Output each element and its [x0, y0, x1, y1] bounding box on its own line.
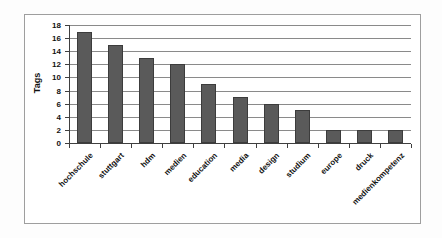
x-category-label: studium — [284, 151, 312, 179]
y-tick-mark — [65, 77, 69, 78]
bar — [388, 130, 403, 143]
x-category-label: stuttgart — [97, 151, 126, 180]
y-tick-mark — [65, 130, 69, 131]
y-tick-label: 12 — [45, 60, 61, 69]
x-tick-mark — [100, 144, 101, 148]
gridline — [69, 38, 411, 39]
bar — [233, 97, 248, 143]
y-tick-mark — [65, 91, 69, 92]
y-tick-mark — [65, 51, 69, 52]
bar — [108, 45, 123, 143]
x-tick-mark — [193, 144, 194, 148]
x-tick-mark — [131, 144, 132, 148]
x-category-label: hdm — [139, 151, 157, 169]
bar — [326, 130, 341, 143]
bar — [77, 32, 92, 143]
x-tick-mark — [69, 144, 70, 148]
bar — [201, 84, 216, 143]
y-tick-label: 4 — [45, 113, 61, 122]
x-tick-mark — [411, 144, 412, 148]
y-tick-label: 10 — [45, 73, 61, 82]
x-tick-mark — [224, 144, 225, 148]
y-tick-mark — [65, 117, 69, 118]
y-tick-label: 6 — [45, 100, 61, 109]
x-category-label: druck — [353, 151, 375, 173]
y-axis-line — [69, 25, 70, 144]
y-tick-label: 14 — [45, 47, 61, 56]
bar — [357, 130, 372, 143]
bar — [264, 104, 279, 143]
x-category-label: hochschule — [57, 151, 95, 189]
x-category-label: education — [186, 151, 219, 184]
x-tick-mark — [380, 144, 381, 148]
x-tick-mark — [287, 144, 288, 148]
x-tick-mark — [162, 144, 163, 148]
x-category-label: medien — [162, 151, 188, 177]
x-tick-mark — [318, 144, 319, 148]
x-category-label: design — [257, 151, 282, 176]
x-category-label: media — [228, 151, 251, 174]
bar — [170, 64, 185, 143]
page-background: Tags 024681012141618hochschulestuttgarth… — [0, 0, 442, 238]
bar — [139, 58, 154, 143]
y-tick-mark — [65, 25, 69, 26]
chart-frame: Tags 024681012141618hochschulestuttgarth… — [24, 14, 421, 224]
y-tick-mark — [65, 104, 69, 105]
x-tick-mark — [349, 144, 350, 148]
y-tick-label: 2 — [45, 126, 61, 135]
x-category-label: europe — [318, 151, 343, 176]
x-axis-line — [69, 143, 411, 144]
y-tick-mark — [65, 38, 69, 39]
gridline — [69, 25, 411, 26]
bar — [295, 110, 310, 143]
y-tick-mark — [65, 64, 69, 65]
x-tick-mark — [256, 144, 257, 148]
y-tick-label: 0 — [45, 139, 61, 148]
y-tick-label: 18 — [45, 21, 61, 30]
y-tick-label: 8 — [45, 87, 61, 96]
y-axis-title: Tags — [32, 63, 42, 103]
y-tick-label: 16 — [45, 34, 61, 43]
